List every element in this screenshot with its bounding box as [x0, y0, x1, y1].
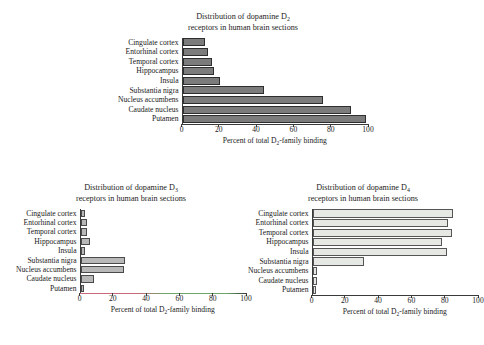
category-label: Putamen — [16, 284, 77, 293]
bar-row — [81, 227, 246, 236]
category-label: Hippocampus — [248, 237, 309, 247]
bar-row — [81, 284, 246, 293]
chart-title-d3-line2: receptors in human brain sections — [16, 194, 246, 205]
bar-row — [313, 247, 478, 257]
category-label: Nucleus accumbens — [248, 266, 309, 276]
category-label: Nucleus accumbens — [16, 265, 77, 274]
category-label: Nucleus accumbens — [118, 95, 179, 105]
axis-tick-label: 0 — [78, 295, 82, 303]
bar — [313, 286, 316, 294]
axis-tick-label: 80 — [209, 295, 217, 303]
bar — [183, 48, 209, 56]
chart-panel-d4: Distribution of dopamine D4 receptors in… — [248, 183, 478, 316]
receptor-subscript-d4: 4 — [407, 187, 410, 193]
bar — [81, 266, 124, 273]
category-label: Hippocampus — [118, 66, 179, 76]
bar-row — [81, 218, 246, 227]
axis-tick-label: 20 — [341, 297, 349, 305]
axis-title-subscript-d4: 2 — [397, 311, 400, 317]
bar — [81, 275, 94, 282]
category-labels-d2: Cingulate cortexEntorhinal cortexTempora… — [118, 38, 179, 145]
bar-row — [183, 66, 368, 76]
bar-row — [313, 209, 478, 219]
chart-title-d3: Distribution of dopamine D3 receptors in… — [16, 183, 246, 205]
axis-title-subscript-d3: 2 — [165, 309, 168, 315]
category-label: Caudate nucleus — [118, 105, 179, 115]
axis-tick-label: 100 — [472, 297, 483, 305]
bar — [81, 247, 86, 254]
bar-row — [183, 86, 368, 96]
plot-area-d2: Cingulate cortexEntorhinal cortexTempora… — [118, 38, 368, 145]
category-label: Entorhinal cortex — [16, 218, 77, 227]
axis-title-subscript-d2: 2 — [277, 140, 280, 146]
bar-row — [81, 246, 246, 255]
category-label: Insula — [248, 247, 309, 257]
bar — [183, 77, 220, 85]
bar-row — [183, 105, 368, 115]
bar — [313, 219, 449, 227]
category-label: Cingulate cortex — [248, 209, 309, 219]
bar — [183, 67, 215, 75]
category-label: Caudate nucleus — [16, 274, 77, 283]
bar — [313, 277, 318, 285]
axis-title-d2: Percent of total D2-family binding — [182, 137, 368, 145]
axis-tick-label: 100 — [362, 126, 373, 134]
axis-tick-label: 20 — [215, 126, 223, 134]
bar-row — [313, 237, 478, 247]
tick-labels-d2: 020406080100 — [182, 125, 368, 136]
axis-tick-label: 60 — [290, 126, 298, 134]
axis-tick-label: 80 — [327, 126, 335, 134]
bar-row — [81, 209, 246, 218]
x-axis-d3: 020406080100 Percent of total D2-family … — [80, 293, 246, 314]
category-label: Entorhinal cortex — [118, 47, 179, 57]
chart-title-d2: Distribution of dopamine D2 receptors in… — [118, 12, 368, 34]
chart-title-d3-line1: Distribution of dopamine D3 — [84, 183, 178, 192]
axis-title-d3: Percent of total D2-family binding — [80, 306, 246, 314]
category-label: Insula — [118, 76, 179, 86]
bar — [81, 238, 91, 245]
chart-title-d4: Distribution of dopamine D4 receptors in… — [248, 183, 478, 205]
bar-row — [313, 285, 478, 295]
bar — [183, 115, 367, 123]
x-axis-d2: 020406080100 Percent of total D2-family … — [182, 124, 368, 145]
bar — [313, 267, 318, 275]
chart-panel-d2: Distribution of dopamine D2 receptors in… — [118, 12, 368, 145]
axis-title-d4: Percent of total D2-family binding — [312, 308, 478, 316]
category-label: Putamen — [248, 285, 309, 295]
bar — [313, 209, 454, 217]
bars-area-d3 — [80, 209, 246, 294]
bar — [81, 219, 88, 226]
bar-row — [183, 114, 368, 124]
bar-row — [313, 218, 478, 228]
plot-area-d4: Cingulate cortexEntorhinal cortexTempora… — [248, 209, 478, 316]
bar — [81, 228, 88, 235]
category-label: Putamen — [118, 114, 179, 124]
chart-panel-d3: Distribution of dopamine D3 receptors in… — [16, 183, 246, 314]
plot-area-d3: Cingulate cortexEntorhinal cortexTempora… — [16, 209, 246, 314]
axis-tick-label: 60 — [176, 295, 184, 303]
bar-row — [183, 95, 368, 105]
category-label: Temporal cortex — [118, 57, 179, 67]
bar-row — [183, 47, 368, 57]
tick-labels-d3: 020406080100 — [80, 294, 246, 305]
category-label: Temporal cortex — [248, 228, 309, 238]
chart-title-d2-line1: Distribution of dopamine D2 — [196, 12, 290, 21]
axis-tick-label: 40 — [142, 295, 150, 303]
category-label: Substantia nigra — [118, 86, 179, 96]
axis-tick-label: 40 — [252, 126, 260, 134]
x-axis-d4: 020406080100 Percent of total D2-family … — [312, 295, 478, 316]
bar — [183, 38, 205, 46]
bars-area-d2 — [182, 38, 368, 124]
axis-tick-label: 0 — [180, 126, 184, 134]
bar — [183, 86, 265, 94]
axis-tick-label: 80 — [441, 297, 449, 305]
bar-row — [313, 228, 478, 238]
category-label: Substantia nigra — [248, 257, 309, 267]
category-label: Caudate nucleus — [248, 276, 309, 286]
category-label: Cingulate cortex — [118, 38, 179, 48]
bar-row — [183, 38, 368, 48]
bar — [313, 238, 442, 246]
bar — [313, 248, 447, 256]
bar-row — [81, 265, 246, 274]
bar — [313, 229, 452, 237]
